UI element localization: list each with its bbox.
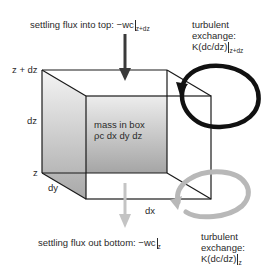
z-bottom-label: z	[33, 167, 38, 178]
z-top-label: z + dz	[12, 64, 38, 75]
bottom-flux-label: settling flux out bottom: −wcz	[38, 237, 161, 252]
box-mass-label: mass in box ρc dx dy dz	[94, 119, 145, 141]
dz-label: dz	[27, 115, 37, 126]
settling-in-arrow-icon	[119, 34, 131, 81]
top-flux-label: settling flux into top: −wcz+dz	[30, 19, 150, 34]
dx-label: dx	[145, 205, 155, 216]
dy-label: dy	[48, 182, 58, 193]
turbulent-top-label: turbulent exchange: K(dc/dz)z+dz	[192, 19, 243, 56]
turbulent-bottom-label: turbulent exchange: K(dc/dz)z	[201, 231, 245, 268]
settling-out-arrow-icon	[119, 183, 131, 228]
turbulent-bottom-loop-icon	[170, 172, 248, 217]
left-face-shading	[42, 70, 86, 199]
